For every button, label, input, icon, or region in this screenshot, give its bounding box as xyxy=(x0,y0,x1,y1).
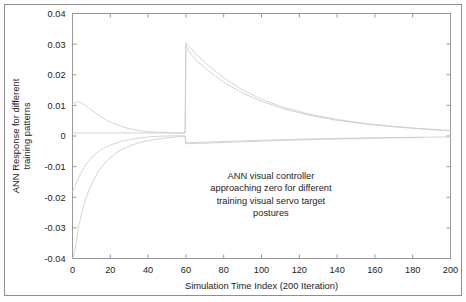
data-series-group xyxy=(73,43,451,259)
y-axis-title-text: ANN Response for different xyxy=(10,78,21,193)
x-tick-label: 180 xyxy=(405,265,420,275)
x-axis-title: Simulation Time Index (200 Iteration) xyxy=(185,280,338,291)
x-tick-label: 160 xyxy=(367,265,382,275)
series-line-pattern-2 xyxy=(73,46,451,133)
y-tick-label: -0.03 xyxy=(45,223,66,233)
y-tick-label: -0.02 xyxy=(45,193,66,203)
x-axis-ticks xyxy=(73,14,451,259)
y-tick-label: 0.02 xyxy=(48,70,66,80)
x-tick-label: 200 xyxy=(443,265,458,275)
annotation-line: postures xyxy=(253,208,289,218)
plot-wrapper: 020406080100120140160180200 -0.04-0.03-0… xyxy=(0,0,466,302)
annotation-line: ANN visual controller xyxy=(228,171,315,181)
x-axis-title-text: Simulation Time Index (200 Iteration) xyxy=(185,280,338,291)
y-tick-label: 0.03 xyxy=(48,40,66,50)
chart-annotation: ANN visual controllerapproaching zero fo… xyxy=(210,171,332,218)
x-tick-label: 140 xyxy=(329,265,344,275)
plot-axes-frame xyxy=(73,14,451,259)
line-chart: 020406080100120140160180200 -0.04-0.03-0… xyxy=(0,0,466,302)
x-tick-label: 80 xyxy=(219,265,229,275)
y-tick-label: 0.04 xyxy=(48,9,66,19)
y-axis-ticks xyxy=(73,14,451,259)
y-axis-title: ANN Response for differenttraining patte… xyxy=(10,78,32,193)
y-axis-tick-labels: -0.04-0.03-0.02-0.0100.010.020.030.04 xyxy=(45,9,66,264)
x-tick-label: 40 xyxy=(143,265,153,275)
y-tick-label: 0 xyxy=(60,131,65,141)
figure-container: 020406080100120140160180200 -0.04-0.03-0… xyxy=(0,0,466,302)
y-tick-label: 0.01 xyxy=(48,101,66,111)
x-tick-label: 120 xyxy=(292,265,307,275)
x-axis-tick-labels: 020406080100120140160180200 xyxy=(70,265,458,275)
series-line-pattern-1 xyxy=(73,43,451,133)
y-tick-label: -0.04 xyxy=(45,254,66,264)
y-tick-label: -0.01 xyxy=(45,162,66,172)
x-tick-label: 60 xyxy=(181,265,191,275)
annotation-line: training visual servo target xyxy=(217,196,326,206)
x-tick-label: 20 xyxy=(105,265,115,275)
annotation-line: approaching zero for different xyxy=(210,183,332,193)
x-tick-label: 0 xyxy=(70,265,75,275)
y-axis-title-text: training patterns xyxy=(21,102,32,170)
x-tick-label: 100 xyxy=(254,265,269,275)
